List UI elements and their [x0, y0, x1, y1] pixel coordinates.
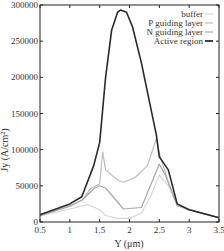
x-tick-label: 3.5	[213, 225, 224, 235]
x-tick-label: 1	[68, 225, 73, 235]
y-tick-label: 200000	[11, 72, 39, 82]
y-tick-label: 0	[34, 217, 39, 227]
y-tick-label: 300000	[11, 0, 39, 10]
y-tick-label: 100000	[11, 145, 39, 155]
y-tick-label: 150000	[11, 109, 39, 119]
series-line-p-guiding-layer	[40, 139, 219, 218]
y-tick-label: 250000	[11, 36, 39, 46]
x-tick-label: 2.5	[154, 225, 166, 235]
x-tick-label: 1.5	[94, 225, 106, 235]
y-tick-label: 50000	[16, 181, 39, 191]
y-axis-label: Jy (A/cm²)	[0, 128, 11, 171]
legend-label: Active region	[154, 36, 204, 46]
legend: bufferP guiding layerN guiding layerActi…	[147, 9, 214, 46]
x-tick-label: 2	[127, 225, 132, 235]
line-chart: 0.511.522.533.50500001000001500002000002…	[0, 0, 224, 251]
series-line-buffer	[40, 175, 219, 218]
x-tick-label: 3	[187, 225, 192, 235]
x-axis-label: Y (μm)	[114, 238, 143, 250]
